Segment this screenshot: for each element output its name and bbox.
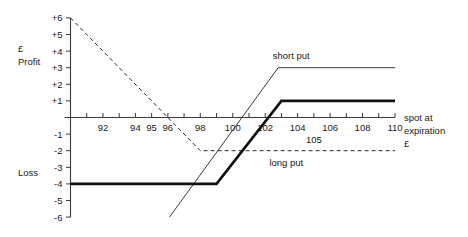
- x-tick-label-105: 105: [306, 134, 322, 145]
- y-tick-label-6: +6: [52, 12, 63, 23]
- x-tick-label-104: 104: [290, 122, 306, 133]
- y-tick-label--4: -4: [54, 178, 62, 189]
- y-tick-label-2: +2: [52, 79, 63, 90]
- y-tick-label-1: +1: [52, 95, 63, 106]
- y-tick-label--5: -5: [54, 195, 62, 206]
- x-axis-ticks: [87, 113, 395, 118]
- y-axis-label-currency: £: [18, 43, 24, 54]
- payoff-diagram-svg: 9294959698100102104105106108110 +6+5+4+3…: [0, 0, 468, 237]
- y-tick-label--6: -6: [54, 212, 62, 223]
- series-short-put-line: [169, 68, 395, 217]
- y-tick-label--3: -3: [54, 162, 62, 173]
- x-tick-label-106: 106: [322, 122, 338, 133]
- chart-root: 9294959698100102104105106108110 +6+5+4+3…: [0, 0, 468, 237]
- y-tick-label-3: +3: [52, 62, 63, 73]
- x-tick-label-98: 98: [195, 122, 206, 133]
- y-axis-tick-labels: +6+5+4+3+2+1-1-2-3-4-5-6: [52, 12, 63, 222]
- series-label-short-put: short put: [273, 50, 310, 61]
- x-axis-label-line-3: £: [404, 138, 410, 149]
- x-tick-label-92: 92: [98, 122, 109, 133]
- y-tick-label-5: +5: [52, 29, 63, 40]
- x-tick-label-96: 96: [163, 122, 174, 133]
- y-tick-label--2: -2: [54, 145, 62, 156]
- x-axis-label-line-2: expiration: [404, 125, 445, 136]
- axes-group: [65, 18, 396, 217]
- x-axis-label-line-1: spot at: [404, 112, 433, 123]
- series-label-long-put: long put: [269, 157, 303, 168]
- y-tick-label--1: -1: [54, 129, 62, 140]
- x-tick-label-94: 94: [130, 122, 141, 133]
- y-axis-label-profit: Profit: [18, 56, 41, 67]
- x-tick-label-95: 95: [146, 122, 157, 133]
- x-tick-label-110: 110: [387, 122, 402, 133]
- y-tick-label-4: +4: [52, 46, 63, 57]
- x-tick-label-108: 108: [355, 122, 371, 133]
- y-axis-label-loss: Loss: [18, 167, 38, 178]
